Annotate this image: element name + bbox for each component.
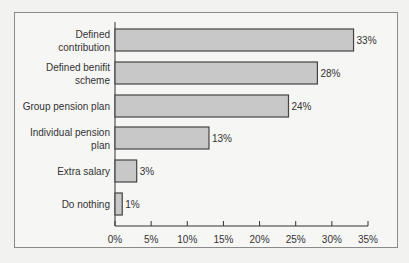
bar-value-label: 13% bbox=[212, 133, 232, 144]
x-tick-label: 25% bbox=[286, 234, 306, 245]
category-label: Defined benifit bbox=[46, 62, 110, 73]
bar-value-label: 28% bbox=[320, 68, 340, 79]
bar-chart: 0%5%10%15%20%25%30%35%33%Definedcontribu… bbox=[0, 0, 409, 263]
bar-value-label: 24% bbox=[291, 101, 311, 112]
x-tick-label: 30% bbox=[322, 234, 342, 245]
category-label: Group pension plan bbox=[23, 101, 110, 112]
category-label: Extra salary bbox=[57, 166, 110, 177]
category-label: Individual pension bbox=[30, 127, 110, 138]
x-tick-label: 10% bbox=[177, 234, 197, 245]
x-tick-label: 5% bbox=[144, 234, 159, 245]
bar bbox=[115, 160, 137, 182]
bar bbox=[115, 95, 288, 117]
x-tick-label: 20% bbox=[250, 234, 270, 245]
bar bbox=[115, 62, 317, 84]
category-label: Do nothing bbox=[62, 199, 110, 210]
category-label: contribution bbox=[58, 42, 110, 53]
category-label: scheme bbox=[75, 75, 110, 86]
category-label: plan bbox=[91, 140, 110, 151]
bar bbox=[115, 29, 354, 51]
bar-value-label: 1% bbox=[125, 199, 140, 210]
bar-value-label: 33% bbox=[357, 35, 377, 46]
x-tick-label: 35% bbox=[358, 234, 378, 245]
bar bbox=[115, 193, 122, 215]
bar bbox=[115, 127, 209, 149]
x-tick-label: 0% bbox=[108, 234, 123, 245]
x-tick-label: 15% bbox=[213, 234, 233, 245]
category-label: Defined bbox=[76, 29, 110, 40]
bar-value-label: 3% bbox=[140, 166, 155, 177]
